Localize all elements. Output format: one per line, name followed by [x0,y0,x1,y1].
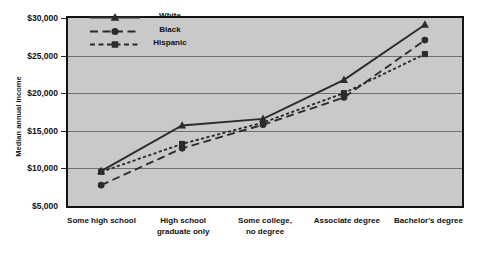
legend-label: White [144,11,196,20]
data-point-marker [421,20,429,27]
y-axis-tick-label: $10,000 [12,163,58,173]
legend-sample-circle-icon [88,24,142,37]
legend-sample-triangle-icon [88,10,142,23]
data-point-marker [98,182,105,189]
data-point-marker [112,41,119,48]
series-line [101,54,425,172]
y-axis-tick-label: $25,000 [12,51,58,61]
y-axis-tick-label: $15,000 [12,126,58,136]
legend-label: Hispanic [144,38,196,47]
data-point-marker [179,141,185,147]
data-point-marker [422,37,429,44]
legend: WhiteBlackHispanic [88,10,196,52]
data-point-marker [341,90,347,96]
y-axis-tick-label: $20,000 [12,88,58,98]
y-axis-tick-label: $5,000 [12,201,58,211]
legend-entry[interactable]: Hispanic [88,37,196,50]
series-line [101,40,425,185]
x-axis-tick-labels: Some high schoolHigh schoolgraduate only… [66,212,464,254]
legend-entry[interactable]: Black [88,24,196,37]
legend-label: Black [144,25,196,34]
x-axis-tick-label-line: Bachelor's degree [369,216,478,227]
x-axis-tick-label: Bachelor's degree [369,216,478,227]
data-point-marker [422,51,428,57]
data-point-marker [111,27,118,34]
data-point-marker [340,76,348,83]
data-point-marker [98,169,104,175]
line-chart: Median annual income $5,000$10,000$15,00… [0,0,478,255]
x-axis-tick-label-line: no degree [205,227,325,238]
y-axis-tick-label: $30,000 [12,13,58,23]
data-point-marker [260,120,266,126]
legend-sample-square-icon [88,37,142,50]
legend-entry[interactable]: White [88,10,196,23]
